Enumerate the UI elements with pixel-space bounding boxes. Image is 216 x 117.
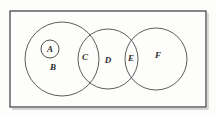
set-label-b: B (49, 62, 56, 72)
set-label-d: D (104, 55, 112, 65)
venn-diagram-figure: A B C D E F (0, 0, 216, 117)
set-label-f: F (154, 50, 161, 60)
set-label-a: A (46, 44, 53, 54)
set-label-e: E (127, 53, 134, 63)
venn-diagram-canvas: A B C D E F (0, 0, 216, 117)
set-label-c: C (82, 52, 89, 62)
